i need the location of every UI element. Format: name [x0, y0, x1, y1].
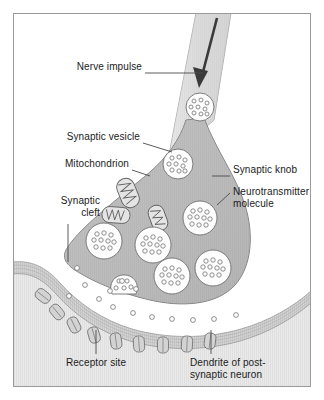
label-dendrite: Dendrite of post- synaptic neuron [190, 357, 266, 380]
neurotransmitter-molecule [170, 317, 175, 322]
label-synaptic-cleft-line1: Synaptic [18, 195, 100, 207]
label-nerve-impulse: Nerve impulse [18, 61, 142, 73]
label-mitochondrion: Mitochondrion [18, 158, 129, 170]
receptor-site [109, 332, 122, 349]
neurotransmitter-molecule [131, 311, 136, 316]
label-neurotransmitter-molecule: Neurotransmitter molecule [233, 186, 309, 209]
synaptic-vesicle [195, 250, 231, 286]
label-synaptic-knob: Synaptic knob [233, 164, 297, 176]
neurotransmitter-molecule [120, 279, 125, 284]
neurotransmitter-molecule [67, 294, 72, 299]
synaptic-vesicle [163, 149, 193, 179]
receptor-site [181, 336, 193, 353]
neurotransmitter-molecule [108, 289, 113, 294]
label-neurotransmitter-line2: molecule [233, 198, 309, 210]
label-dendrite-line2: synaptic neuron [190, 369, 266, 381]
neurotransmitter-molecule [234, 313, 239, 318]
label-dendrite-line1: Dendrite of post- [190, 357, 266, 369]
label-synaptic-vesicle: Synaptic vesicle [18, 131, 140, 143]
synaptic-vesicle [186, 93, 214, 121]
synaptic-vesicle [183, 201, 217, 235]
synaptic-vesicle [154, 258, 190, 294]
neurotransmitter-molecule [150, 315, 155, 320]
fusing-vesicle [111, 275, 138, 294]
neurotransmitter-molecule [191, 318, 196, 323]
label-receptor-site: Receptor site [52, 357, 140, 369]
receptor-site [204, 332, 217, 349]
neurotransmitter-molecule [212, 317, 217, 322]
label-synaptic-cleft-line2: cleft [18, 207, 100, 219]
synaptic-vesicle [86, 223, 122, 259]
neurotransmitter-molecule [75, 266, 80, 271]
receptor-site [133, 336, 145, 353]
mitochondrion [101, 206, 130, 224]
neurotransmitter-molecule [83, 283, 88, 288]
synapse-diagram: Nerve impulse Synaptic vesicle Mitochond… [0, 0, 324, 400]
neurotransmitter-molecule [97, 297, 102, 302]
label-neurotransmitter-line1: Neurotransmitter [233, 186, 309, 198]
neurotransmitter-molecule [134, 287, 139, 292]
receptor-site [158, 337, 169, 353]
synaptic-vesicle [135, 227, 171, 263]
label-synaptic-cleft: Synaptic cleft [18, 195, 100, 218]
neurotransmitter-molecule [111, 305, 116, 310]
